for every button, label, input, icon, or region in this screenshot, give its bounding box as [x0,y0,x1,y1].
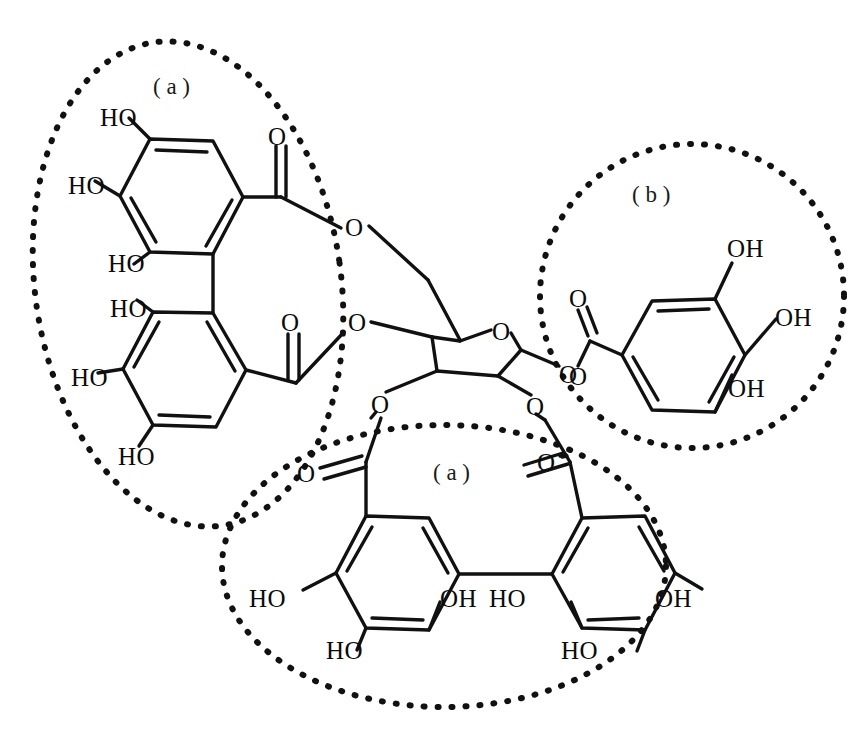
o-ester-top: O [345,215,364,240]
ring3-double-3 [347,527,372,571]
ho-4: HO [110,296,147,321]
ho-8: HO [326,638,363,663]
o-ester-lower-left: O [371,392,390,417]
bond-lines [95,118,776,651]
label-a-top-left: ( a ) [153,74,190,100]
glc-c3-to-o-lower-left [386,371,437,392]
ho-3: HO [108,251,145,276]
ring-galloyl [622,299,745,412]
ring3-double-1 [423,528,448,573]
label-a-bottom: ( a ) [433,460,470,486]
bond-oh-gallate-mid [745,319,776,355]
glc-c5-oring [460,330,491,341]
ring4-double-2 [588,618,639,620]
oh-2: OH [655,586,692,611]
ring-hhdp-bottom-left [336,516,459,630]
o-carbonyl-bl: O [297,461,316,486]
oh-gallate-bot: OH [728,376,765,401]
bond-oester-mid-to-c4 [371,322,432,337]
bond-oh-gallate-top [715,263,732,299]
glc-c3-c4 [432,337,437,371]
o-carbonyl-mid: O [281,310,300,335]
oh-gallate-mid: OH [775,305,812,330]
ho-5: HO [71,365,108,390]
ring-hhdp-top-left [120,139,243,254]
oh-gallate-top: OH [727,236,764,261]
bond-aryl-to-co-br [570,462,582,518]
ho-1: HO [100,105,137,130]
bond-co-br-dbl-b [562,456,567,457]
o-ester-gallate: O [569,364,588,389]
bond-co-bl-dbl-a [320,456,362,468]
ho-9: HO [489,586,526,611]
bond-oester-top-to-ch2 [369,226,428,280]
bond-co-bl-dbl-b [324,467,366,479]
ho-10: HO [561,638,598,663]
ho-2: HO [68,173,105,198]
bond-ch2-to-c5 [428,280,460,340]
ring-hhdp-lower-left [123,312,246,427]
bond-gallate-aryl-to-co [590,341,622,355]
o-ring-glucose: O [492,319,511,344]
ring1-double-1 [156,150,207,152]
bond-ho9 [571,602,582,628]
ho-6: HO [118,444,155,469]
bond-co-top-to-o-ester [281,197,341,228]
bond-co-bl-to-o-ester [366,418,381,462]
ring5-double-1 [658,309,709,311]
ring2-double-2 [159,415,210,417]
ho-7: HO [249,586,286,611]
ring-hhdp-bottom-right [552,516,675,630]
ring3-double-2 [372,618,423,620]
figure-canvas: HO HO HO HO HO HO O O O O O O O O O O HO… [0,0,866,729]
o-carbonyl-top: O [268,124,287,149]
glc-c4-c5 [432,337,460,341]
label-b-right: ( b ) [632,182,670,208]
oh-1: OH [440,586,477,611]
bond-gallate-co-dbl-a [578,310,588,336]
bond-ho7 [303,573,336,590]
o-ester-mid: O [348,310,367,335]
o-carbonyl-br: O [537,450,556,475]
glc-c1-c2 [498,350,521,376]
glc-c2-c3 [437,371,498,376]
o-ester-lower-right: O [526,394,545,419]
glc-oring-c1 [511,333,521,350]
o-carbonyl-gallate: O [569,286,588,311]
bond-gallate-co-dbl-b [587,307,597,333]
